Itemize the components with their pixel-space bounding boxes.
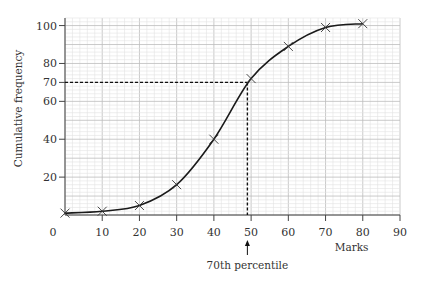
x-tick-label: 20 bbox=[132, 226, 146, 239]
y-tick-label: 100 bbox=[36, 20, 57, 33]
x-axis-title: Marks bbox=[335, 241, 369, 253]
x-tick-label: 10 bbox=[95, 226, 109, 239]
y-tick-label: 40 bbox=[43, 133, 57, 146]
x-tick-label: 0 bbox=[50, 226, 57, 239]
x-tick-label: 30 bbox=[170, 226, 184, 239]
y-tick-label: 60 bbox=[43, 95, 57, 108]
x-tick-label: 40 bbox=[207, 226, 221, 239]
cumulative-frequency-chart: 01020304050607080902040607080100 Cumulat… bbox=[0, 0, 423, 281]
annotation-arrow-head bbox=[245, 240, 250, 246]
x-tick-label: 80 bbox=[356, 226, 370, 239]
x-tick-label: 60 bbox=[281, 226, 295, 239]
y-tick-label: 70 bbox=[43, 76, 57, 89]
percentile-annotation: 70th percentile bbox=[207, 240, 289, 271]
y-tick-label: 20 bbox=[43, 171, 57, 184]
percentile-guides bbox=[65, 82, 247, 215]
y-tick-label: 80 bbox=[43, 57, 57, 70]
y-axis-title: Cumulative frequency bbox=[12, 50, 24, 168]
grid bbox=[65, 18, 400, 215]
x-tick-label: 70 bbox=[319, 226, 333, 239]
x-tick-label: 90 bbox=[393, 226, 407, 239]
annotation-label: 70th percentile bbox=[207, 259, 289, 271]
x-tick-label: 50 bbox=[244, 226, 258, 239]
